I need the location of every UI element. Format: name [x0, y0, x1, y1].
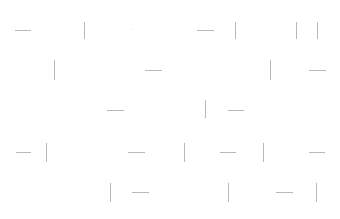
horizontal-line-segment [197, 30, 214, 31]
horizontal-line-segment [15, 30, 31, 31]
vertical-line-segment [46, 143, 47, 162]
vertical-line-segment [110, 183, 111, 202]
vertical-line-segment [316, 183, 317, 202]
horizontal-line-segment [107, 110, 124, 111]
vertical-line-segment [235, 22, 236, 39]
horizontal-line-segment [128, 152, 145, 153]
vertical-line-segment [84, 22, 85, 39]
horizontal-line-segment [309, 70, 326, 71]
horizontal-line-segment [276, 192, 293, 193]
horizontal-line-segment [132, 192, 149, 193]
horizontal-line-segment [220, 152, 236, 153]
vertical-line-segment [184, 143, 185, 162]
vertical-line-segment [205, 100, 206, 118]
horizontal-line-segment [16, 152, 31, 153]
vertical-line-segment [296, 22, 297, 39]
horizontal-line-segment [228, 110, 244, 111]
vertical-line-segment [317, 22, 318, 39]
line-pattern-canvas [0, 0, 340, 219]
horizontal-line-segment [309, 152, 325, 153]
vertical-line-segment [228, 183, 229, 202]
horizontal-line-segment [145, 70, 162, 71]
vertical-line-segment [263, 143, 264, 162]
dot-mark [132, 29, 133, 30]
vertical-line-segment [54, 60, 55, 80]
vertical-line-segment [270, 60, 271, 80]
